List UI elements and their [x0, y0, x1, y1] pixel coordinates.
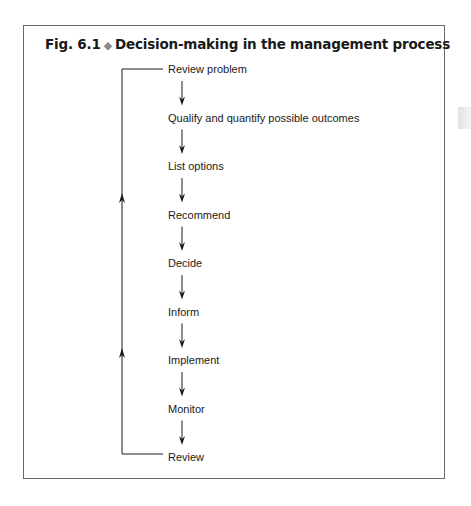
- step-label: Inform: [168, 306, 199, 318]
- step-label: Review problem: [168, 63, 247, 75]
- feedback-loop: [119, 69, 163, 454]
- step-label: Recommend: [168, 209, 230, 221]
- step-label: Review: [168, 451, 204, 463]
- step-label: Monitor: [168, 403, 205, 415]
- step-label: Decide: [168, 257, 202, 269]
- step-label: Implement: [168, 354, 219, 366]
- flowchart: [0, 0, 471, 506]
- step-label: List options: [168, 160, 224, 172]
- step-label: Qualify and quantify possible outcomes: [168, 112, 359, 124]
